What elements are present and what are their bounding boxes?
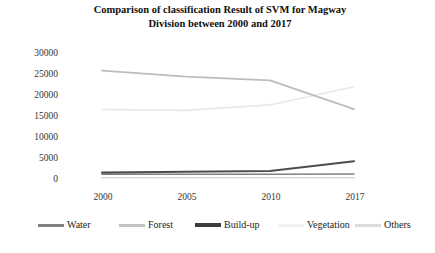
series-lines	[102, 71, 354, 178]
legend-swatch-water-icon	[38, 224, 64, 227]
legend-item-others[interactable]: Others	[355, 218, 411, 232]
legend-label-vegetation: Vegetation	[307, 219, 350, 231]
legend-swatch-others-icon	[355, 224, 381, 227]
chart-container: Comparison of classification Result of S…	[0, 0, 435, 253]
legend-swatch-buildup-icon	[195, 223, 221, 227]
legend-item-vegetation[interactable]: Vegetation	[278, 218, 350, 232]
legend-item-buildup[interactable]: Build-up	[195, 218, 260, 232]
chart-legend: Water Forest Build-up Vegetation Others	[30, 218, 410, 234]
series-line-vegetation	[102, 87, 354, 111]
legend-label-water: Water	[67, 219, 91, 231]
legend-swatch-forest-icon	[119, 224, 145, 227]
x-axis-tick-2005: 2005	[164, 192, 210, 202]
series-line-buildup	[102, 161, 354, 172]
plot-area	[62, 52, 402, 179]
x-axis-tick-2010: 2010	[248, 192, 294, 202]
series-line-forest	[102, 71, 354, 110]
legend-label-others: Others	[384, 219, 411, 231]
x-axis-tick-2017: 2017	[332, 192, 378, 202]
legend-item-water[interactable]: Water	[38, 218, 91, 232]
legend-label-forest: Forest	[148, 219, 173, 231]
legend-swatch-vegetation-icon	[278, 224, 304, 227]
legend-item-forest[interactable]: Forest	[119, 218, 173, 232]
plot-svg	[62, 52, 402, 179]
x-axis-tick-2000: 2000	[80, 192, 126, 202]
legend-label-buildup: Build-up	[224, 219, 260, 231]
